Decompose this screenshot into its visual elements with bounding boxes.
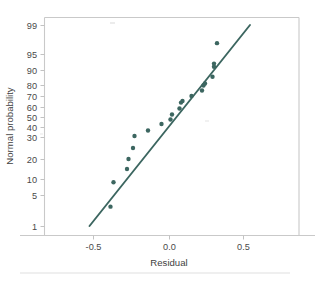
y-tick-label-95: 95 — [27, 50, 37, 60]
data-point — [111, 180, 115, 184]
y-tick-label-70: 70 — [27, 92, 37, 102]
y-tick-label-50: 50 — [27, 113, 37, 123]
y-tick-label-90: 90 — [27, 66, 37, 76]
data-point — [189, 94, 193, 98]
y-tick-label-20: 20 — [27, 155, 37, 165]
data-point — [159, 122, 163, 126]
data-point — [177, 106, 181, 110]
data-point — [212, 61, 216, 65]
data-point — [200, 88, 204, 92]
y-tick-label-60: 60 — [27, 103, 37, 113]
y-tick-label-99: 99 — [27, 21, 37, 31]
y-tick-label-30: 30 — [27, 133, 37, 143]
data-point — [180, 99, 184, 103]
y-tick-label-40: 40 — [27, 123, 37, 133]
x-axis-title: Residual — [150, 257, 187, 268]
y-tick-label-10: 10 — [27, 175, 37, 185]
data-point — [108, 204, 112, 208]
data-point — [132, 134, 136, 138]
x-tick-label-0.0: 0.0 — [163, 242, 176, 252]
data-point — [203, 81, 207, 85]
y-tick-label-5: 5 — [32, 191, 37, 201]
normal-probability-plot-figure: 999590807060504030201051 -0.50.00.5 Resi… — [0, 0, 320, 282]
x-tick-label-0.5: 0.5 — [237, 242, 250, 252]
y-tick-label-80: 80 — [27, 81, 37, 91]
data-point — [131, 146, 135, 150]
data-point — [210, 75, 214, 79]
data-point — [215, 41, 219, 45]
chart-canvas: 999590807060504030201051 -0.50.00.5 Resi… — [0, 0, 320, 282]
data-point — [168, 117, 172, 121]
data-point — [126, 157, 130, 161]
y-tick-label-1: 1 — [32, 222, 37, 232]
data-point — [125, 167, 129, 171]
data-point — [146, 128, 150, 132]
data-point — [170, 112, 174, 116]
x-tick-label--0.5: -0.5 — [86, 242, 102, 252]
figure-background — [0, 0, 320, 282]
y-axis-title: Normal probability — [4, 87, 15, 165]
